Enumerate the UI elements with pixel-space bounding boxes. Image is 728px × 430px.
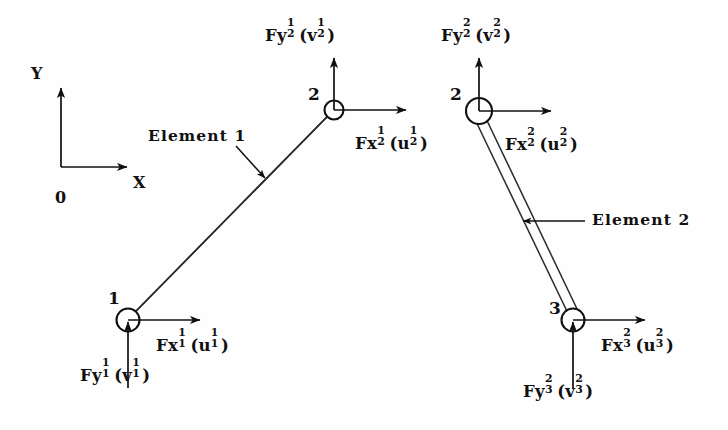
close-paren: ): [585, 382, 593, 401]
fx1-e1-disp-base: u: [198, 336, 210, 355]
force-label-fx2-element1: Fx12(u12): [355, 132, 428, 152]
close-paren: ): [503, 26, 511, 45]
force-label-fy2-element2: Fy22(v22): [441, 24, 511, 44]
fx2-e2-scripts: 22: [527, 133, 537, 150]
fx1-e1-base: Fx: [156, 336, 178, 355]
fy2-e2-scripts: 22: [463, 24, 473, 41]
fx1-e1-scripts: 11: [178, 334, 188, 351]
fx2-e2-disp-base: u: [547, 135, 559, 154]
fx3-e2-disp-base: u: [643, 336, 655, 355]
fy1-e1-disp-base: v: [122, 366, 132, 385]
force-label-fy1-element1: Fy11(v11): [80, 364, 150, 384]
close-paren: ): [666, 336, 674, 355]
node-1-number: 1: [108, 290, 120, 307]
force-label-fx3-element2: Fx23(u23): [601, 334, 674, 354]
fx3-e2-disp-scripts: 23: [656, 334, 666, 351]
close-paren: ): [142, 366, 150, 385]
close-paren: ): [570, 135, 578, 154]
y-axis-label: Y: [31, 66, 42, 82]
fy2-e1-disp-base: v: [307, 26, 317, 45]
element-1-leader-arrow: [236, 146, 265, 178]
fy1-e1-disp-scripts: 11: [132, 364, 142, 381]
node-3-number: 3: [549, 300, 561, 317]
global-coordinate-axes: [61, 88, 127, 167]
force-label-fy3-element2: Fy23(v23): [523, 380, 593, 400]
fx2-e1-base: Fx: [355, 134, 377, 153]
force-label-fx1-element1: Fx11(u11): [156, 334, 229, 354]
fy1-e1-scripts: 11: [102, 364, 112, 381]
node-2-right-number: 2: [450, 86, 462, 103]
fy2-e1-base: Fy: [265, 26, 287, 45]
fx2-e1-scripts: 12: [377, 132, 387, 149]
element-2-label: Element 2: [592, 212, 690, 228]
fy2-e2-base: Fy: [441, 26, 463, 45]
fy3-e2-disp-scripts: 23: [575, 380, 585, 397]
fy2-e1-disp-scripts: 12: [317, 24, 327, 41]
origin-label: 0: [55, 190, 66, 206]
fx2-e1-disp-base: u: [397, 134, 409, 153]
fy2-e2-disp-base: v: [483, 26, 493, 45]
fx2-e1-disp-scripts: 12: [410, 132, 420, 149]
fy2-e2-disp-scripts: 22: [493, 24, 503, 41]
close-paren: ): [327, 26, 335, 45]
fy1-e1-base: Fy: [80, 366, 102, 385]
element-1-leader: [236, 146, 265, 178]
fx1-e1-disp-scripts: 11: [211, 334, 221, 351]
fx3-e2-base: Fx: [601, 336, 623, 355]
fy3-e2-scripts: 23: [545, 380, 555, 397]
fy3-e2-base: Fy: [523, 382, 545, 401]
fx2-e2-disp-scripts: 22: [560, 133, 570, 150]
fy2-e1-scripts: 12: [287, 24, 297, 41]
fx2-e2-base: Fx: [505, 135, 527, 154]
truss-free-body-diagram: 0 Y X Element 1 Element 2 1 2 2 3 Fy12(v…: [0, 0, 728, 430]
element-1-label: Element 1: [148, 128, 246, 144]
x-axis-label: X: [133, 175, 145, 191]
force-label-fy2-element1: Fy12(v12): [265, 24, 335, 44]
fx3-e2-scripts: 23: [623, 334, 633, 351]
force-label-fx2-element2: Fx22(u22): [505, 133, 578, 153]
fy3-e2-disp-base: v: [565, 382, 575, 401]
node-2-left-number: 2: [308, 86, 320, 103]
close-paren: ): [420, 134, 428, 153]
close-paren: ): [221, 336, 229, 355]
